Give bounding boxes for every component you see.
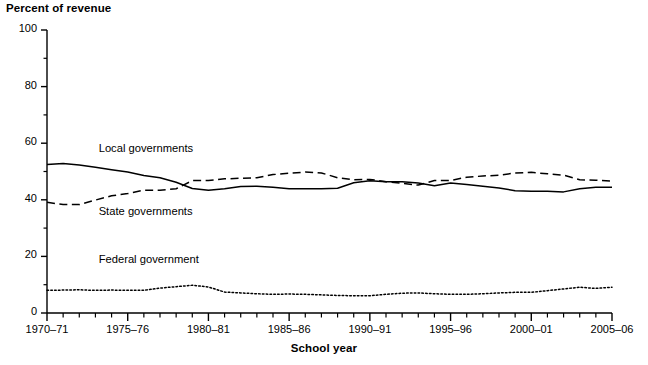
series-annotation-label: Local governments [99,142,194,154]
y-axis-tick-label: 80 [7,79,37,91]
revenue-source-line-chart: Percent of revenue School year 020406080… [0,0,648,365]
series-line-0 [47,164,612,192]
x-axis-title: School year [0,342,648,354]
series-annotation-label: Federal government [99,253,199,265]
x-axis-tick-label: 2000–01 [496,323,566,335]
series-annotation-label: State governments [99,205,193,217]
series-line-2 [47,285,612,295]
x-axis-tick-label: 2005–06 [577,323,647,335]
x-axis-tick-label: 1975–76 [93,323,163,335]
y-axis-tick-label: 40 [7,192,37,204]
x-axis-tick-label: 1995–96 [416,323,486,335]
x-axis-tick-label: 1970–71 [12,323,82,335]
y-axis-tick-label: 0 [7,305,37,317]
y-axis-tick-label: 60 [7,135,37,147]
y-axis-tick-label: 20 [7,248,37,260]
y-axis-tick-label: 100 [7,22,37,34]
plot-area [0,0,648,365]
x-axis-tick-label: 1990–91 [335,323,405,335]
y-axis-title: Percent of revenue [6,2,111,14]
x-axis-tick-label: 1985–86 [254,323,324,335]
x-axis-tick-label: 1980–81 [173,323,243,335]
